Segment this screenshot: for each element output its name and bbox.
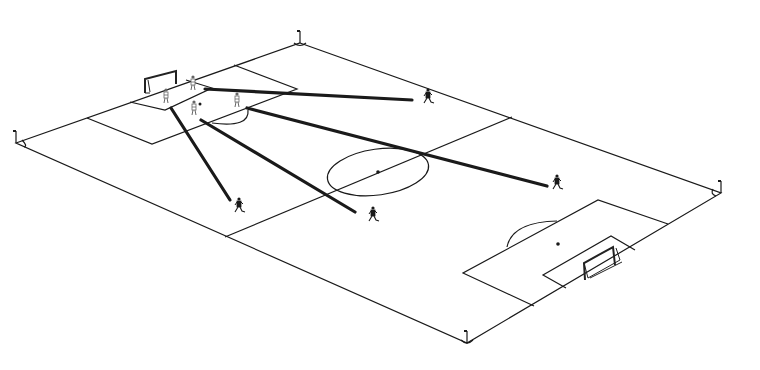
right-goal <box>584 247 615 280</box>
right-goal-base <box>590 262 622 278</box>
player-head-icon <box>426 88 429 91</box>
player-head-icon <box>192 100 195 103</box>
player-head-icon <box>164 88 167 91</box>
defender-player-d3 <box>192 100 196 115</box>
pass-lines <box>171 89 547 212</box>
player-head-icon <box>371 206 374 209</box>
pitch-markings <box>16 43 721 343</box>
halfway-line <box>225 117 512 237</box>
corner-flag-left-icon <box>13 130 16 132</box>
corner-flag-bottom-icon <box>464 330 467 332</box>
pitch-boundary <box>16 43 721 343</box>
right-penalty-arc <box>507 221 557 247</box>
player-legs-running-icon <box>369 216 379 221</box>
left-penalty-arc <box>212 110 248 124</box>
corner-flags <box>13 30 721 343</box>
right-penalty-spot <box>556 242 560 246</box>
player-torso-icon <box>426 92 430 98</box>
player-legs-running-icon <box>424 98 434 103</box>
left-goal-side <box>148 80 150 92</box>
player-head-icon <box>191 75 194 78</box>
player-legs-icon <box>191 85 195 90</box>
center-spot <box>376 170 380 174</box>
player-legs-icon <box>235 102 239 107</box>
ball-icon <box>199 103 202 106</box>
corner-flag-right-icon <box>718 180 721 182</box>
defender-player-d2 <box>191 75 195 90</box>
player-legs-icon <box>164 98 168 103</box>
pass-line-4 <box>171 108 230 200</box>
player-legs-icon <box>192 110 196 115</box>
attacker-player-a2 <box>553 174 563 189</box>
player-head-icon <box>555 174 558 177</box>
player-legs-running-icon <box>235 207 245 212</box>
player-head-icon <box>237 197 240 200</box>
soccer-pitch-diagram <box>0 0 760 370</box>
goals <box>145 71 622 280</box>
player-head-icon <box>235 92 238 95</box>
defender-player-d4 <box>235 92 239 107</box>
corner-flag-top-icon <box>297 30 300 32</box>
right-penalty-box <box>463 200 668 306</box>
attacker-player-a4 <box>235 197 245 212</box>
player-legs-running-icon <box>553 184 563 189</box>
attacker-player-a3 <box>369 206 379 221</box>
player-torso-icon <box>371 210 375 216</box>
player-torso-icon <box>237 201 241 207</box>
player-torso-icon <box>555 178 559 184</box>
defender-player-d1 <box>164 88 168 103</box>
pitch-canvas <box>0 0 760 370</box>
left-goal-area <box>130 80 212 110</box>
pass-line-3 <box>201 120 355 212</box>
